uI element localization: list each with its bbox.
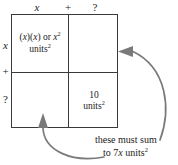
cell-top-left-expression: (x)(x) or x2 (19, 32, 60, 43)
cell-top-left: (x)(x) or x2 units2 (12, 15, 68, 72)
left-operator-label: + (0, 66, 11, 77)
top-term-2-label: ? (88, 2, 102, 13)
cell-top-left-units: units2 (29, 44, 51, 55)
area-model-diagram: x + ? x + ? (x)(x) or x2 units2 10 units… (0, 0, 178, 165)
sum-annotation-line2: to 7x units2 (95, 147, 178, 160)
cell-bottom-right-units: units2 (83, 101, 105, 112)
left-term-1-label: x (0, 40, 11, 51)
cell-bottom-right-value: 10 (89, 90, 99, 101)
left-term-2-label: ? (0, 94, 11, 105)
top-operator-label: + (61, 2, 75, 13)
sum-annotation-line1: these must sum (95, 134, 157, 145)
cell-bottom-right: 10 units2 (69, 73, 119, 129)
top-term-1-label: x (30, 2, 44, 13)
cell-bottom-left (12, 73, 68, 129)
area-model-grid: (x)(x) or x2 units2 10 units2 (11, 14, 118, 128)
arrow-to-top-right-cell (118, 46, 166, 140)
sum-annotation: these must sum to 7x units2 (95, 134, 178, 159)
cell-top-right (69, 15, 119, 72)
